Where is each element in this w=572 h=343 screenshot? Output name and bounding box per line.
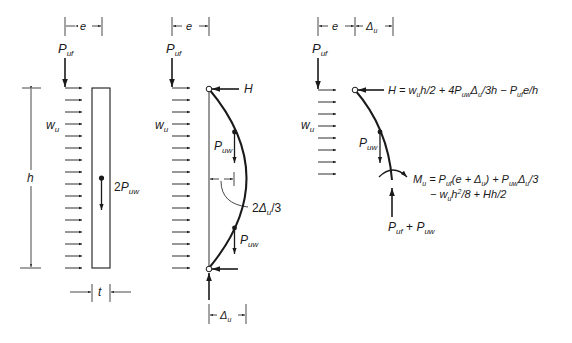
e-label: e: [80, 20, 86, 32]
p-uw-label-3: Puw: [359, 136, 378, 152]
axial-reaction-label: Puf + Puw: [388, 220, 436, 236]
panel-half-height-section: e Δu Puf wu H = wuh/2 + 4PuwΔu/3h − Pufe…: [301, 17, 539, 236]
distributed-load-arrows: [65, 88, 82, 268]
t-label: t: [98, 285, 102, 299]
wall-load-diagram: e Puf h wu: [0, 0, 572, 343]
two-thirds-deflection-label: 2Δu/3: [252, 201, 282, 217]
moment-equation-line2: − wuh2/8 + Hh/2: [430, 188, 506, 202]
h-label: h: [27, 171, 34, 185]
half-deflected-curve: [355, 90, 392, 180]
two-thirds-deflection-dimension: [210, 172, 248, 207]
h-equation: H = wuh/2 + 4PuwΔu/3h − Pufe/h: [388, 84, 538, 98]
distributed-load-arrows-2: [172, 88, 190, 268]
h-label-2: H: [244, 82, 253, 96]
upper-p-uw-label: Puw: [214, 139, 233, 155]
p-uf-label-3: Puf: [312, 41, 328, 58]
w-u-label-2: wu: [155, 118, 169, 134]
w-u-label: wu: [46, 118, 60, 134]
panel-free-body-wall: e Puf h wu: [20, 17, 140, 302]
e-label-3: e: [332, 20, 338, 32]
p-uf-label: Puf: [58, 41, 74, 58]
moment-arc-arrow: [379, 170, 407, 177]
p-uf-label-2: Puf: [166, 41, 182, 58]
self-weight-label: 2Puw: [114, 180, 140, 196]
bottom-pin: [206, 266, 212, 272]
eccentricity-dimension-3: [318, 17, 393, 36]
moment-equation-line1: Mu = Puf(e + Δu) + PuwΔu/3: [413, 173, 539, 187]
top-pin-3: [352, 87, 358, 93]
distributed-load-arrows-3: [318, 90, 336, 174]
lower-p-uw-label: Puw: [240, 233, 259, 249]
panel-deflected-shape: e Puf wu H: [155, 17, 282, 324]
delta-label-3: Δu: [365, 20, 377, 34]
e-label-2: e: [186, 20, 192, 32]
top-pin: [206, 86, 212, 92]
w-u-label-3: wu: [301, 118, 315, 134]
delta-label: Δu: [219, 309, 231, 323]
